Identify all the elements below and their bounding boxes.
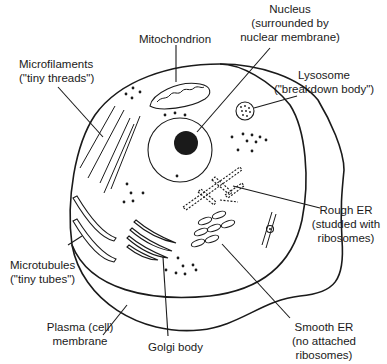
vesicle	[267, 226, 274, 233]
rough-er	[183, 167, 244, 210]
nucleus	[148, 118, 212, 182]
label-golgi-body: Golgi body	[148, 340, 203, 354]
label-mitochondrion: Mitochondrion	[115, 32, 235, 46]
label-plasma-membrane: Plasma (cell) membrane	[35, 320, 125, 348]
mitochondrion	[150, 83, 210, 109]
plasma-membrane-outline	[70, 64, 344, 331]
label-rough-er: Rough ER (studded with ribosomes)	[306, 203, 386, 245]
label-smooth-er: Smooth ER (no attached ribosomes)	[284, 320, 364, 362]
smooth-er	[190, 210, 235, 248]
label-lysosome: Lysosome ("breakdown body")	[270, 68, 378, 96]
label-nucleus: Nucleus (surrounded by nuclear membrane)	[230, 2, 350, 44]
label-microfilaments: Microfilaments ("tiny threads")	[19, 57, 94, 85]
cell-diagram	[0, 0, 387, 364]
lysosome	[236, 102, 254, 120]
golgi-body	[127, 220, 176, 260]
microtubules	[73, 196, 116, 262]
label-microtubules: Microtubules ("tiny tubes")	[10, 258, 75, 286]
microfilaments	[80, 106, 140, 193]
